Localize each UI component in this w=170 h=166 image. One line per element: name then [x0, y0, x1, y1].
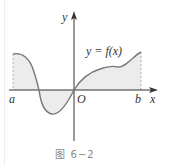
y-axis-label: y: [61, 10, 68, 24]
function-label: y = f(x): [85, 44, 122, 58]
x-axis-label: x: [149, 92, 156, 106]
figure: y x O a b y = f(x) 图 6−2: [0, 0, 170, 166]
origin-label: O: [77, 92, 86, 106]
interval-right-label: b: [135, 92, 141, 106]
figure-caption: 图 6−2: [0, 146, 150, 161]
graph: y x O a b y = f(x): [0, 0, 170, 166]
interval-left-label: a: [9, 92, 15, 106]
